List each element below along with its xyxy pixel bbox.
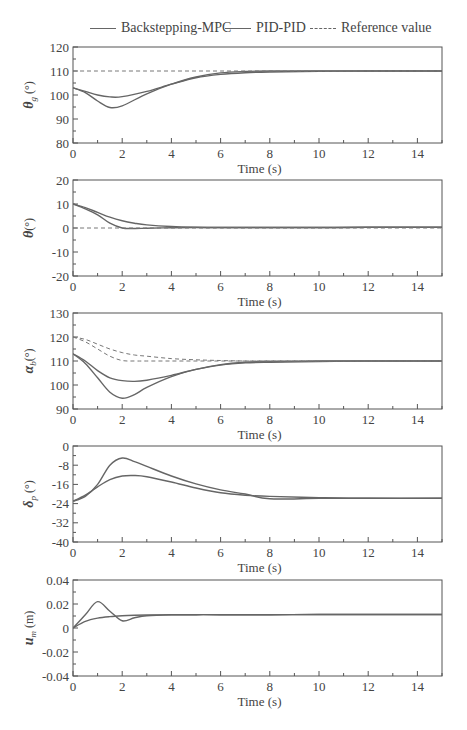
x-tick-label: 4 xyxy=(168,412,175,427)
chart-panel-1: 02468101214Time (s)1201101009080θg (°) xyxy=(21,40,442,177)
series-backstepping-mpc xyxy=(73,71,442,97)
x-tick-label: 4 xyxy=(168,279,175,294)
y-tick-label: 0 xyxy=(63,221,70,236)
x-tick-label: 0 xyxy=(70,545,77,560)
chart-panel-5: 02468101214Time (s)0.040.020-0.02-0.04um… xyxy=(21,573,442,710)
x-tick-label: 10 xyxy=(313,679,326,694)
x-axis-label: Time (s) xyxy=(238,161,282,176)
x-axis-label: Time (s) xyxy=(238,427,282,442)
series-backstepping-mpc xyxy=(73,354,442,382)
y-tick-label: 120 xyxy=(50,330,70,345)
series-pid-pid xyxy=(73,458,442,501)
x-tick-label: 0 xyxy=(70,679,77,694)
x-tick-label: 2 xyxy=(119,545,126,560)
y-tick-label: 0 xyxy=(63,621,70,636)
y-axis-label: δp (°) xyxy=(21,480,38,507)
x-tick-label: 8 xyxy=(267,545,274,560)
plot-frame xyxy=(73,580,442,676)
x-tick-label: 12 xyxy=(362,279,375,294)
x-tick-label: 6 xyxy=(217,146,224,161)
x-tick-label: 2 xyxy=(119,679,126,694)
x-tick-label: 12 xyxy=(362,545,375,560)
x-tick-label: 14 xyxy=(411,679,425,694)
y-tick-label: -24 xyxy=(52,496,70,511)
series-backstepping-mpc xyxy=(73,615,442,628)
y-tick-label: -8 xyxy=(58,458,69,473)
x-axis-label: Time (s) xyxy=(238,694,282,709)
y-tick-label: -20 xyxy=(52,269,69,284)
y-tick-label: 0.04 xyxy=(46,573,69,588)
x-tick-label: 8 xyxy=(267,412,274,427)
figure-caption-cutoff xyxy=(0,710,467,730)
y-tick-label: -0.02 xyxy=(42,645,69,660)
y-tick-label: -10 xyxy=(52,245,69,260)
x-tick-label: 4 xyxy=(168,679,175,694)
x-tick-label: 4 xyxy=(168,545,175,560)
y-axis-label: αb(°) xyxy=(21,348,38,373)
chart-stack: 02468101214Time (s)1201101009080θg (°)02… xyxy=(0,0,467,730)
y-tick-label: 110 xyxy=(50,64,69,79)
y-tick-label: 120 xyxy=(50,40,70,55)
y-tick-label: -16 xyxy=(52,477,70,492)
y-tick-label: 10 xyxy=(56,197,69,212)
x-tick-label: 10 xyxy=(313,545,326,560)
series-pid-pid xyxy=(73,204,442,229)
series-pid-pid xyxy=(73,602,442,628)
x-axis-label: Time (s) xyxy=(238,560,282,575)
y-tick-label: 100 xyxy=(50,378,70,393)
chart-panel-2: 02468101214Time (s)20100-10-20θ(°) xyxy=(21,173,442,310)
x-tick-label: 14 xyxy=(411,279,425,294)
x-tick-label: 10 xyxy=(313,412,326,427)
x-tick-label: 2 xyxy=(119,279,126,294)
series-reference-value-backstepping-mpc xyxy=(73,337,442,361)
x-tick-label: 0 xyxy=(70,412,77,427)
plot-frame xyxy=(73,446,442,542)
x-tick-label: 10 xyxy=(313,146,326,161)
y-axis-label: θg (°) xyxy=(21,81,38,109)
x-tick-label: 0 xyxy=(70,279,77,294)
x-tick-label: 8 xyxy=(267,279,274,294)
x-tick-label: 8 xyxy=(267,146,274,161)
y-tick-label: 130 xyxy=(50,306,70,321)
chart-panel-4: 02468101214Time (s)0-8-16-24-32-40δp (°) xyxy=(21,439,442,576)
x-tick-label: 6 xyxy=(217,545,224,560)
x-tick-label: 8 xyxy=(267,679,274,694)
chart-panel-3: 02468101214Time (s)13012011010090αb(°) xyxy=(21,306,442,443)
series-reference-value-pid-pid xyxy=(73,337,442,361)
series-backstepping-mpc xyxy=(73,204,442,228)
y-tick-label: 110 xyxy=(50,354,69,369)
y-tick-label: 20 xyxy=(56,173,69,188)
x-tick-label: 14 xyxy=(411,545,425,560)
x-tick-label: 6 xyxy=(217,412,224,427)
x-tick-label: 2 xyxy=(119,146,126,161)
x-tick-label: 2 xyxy=(119,412,126,427)
y-tick-label: 0 xyxy=(63,439,70,454)
x-tick-label: 10 xyxy=(313,279,326,294)
x-tick-label: 12 xyxy=(362,679,375,694)
y-tick-label: 0.02 xyxy=(46,597,69,612)
y-tick-label: -0.04 xyxy=(42,669,70,684)
x-tick-label: 6 xyxy=(217,679,224,694)
y-tick-label: 100 xyxy=(50,88,70,103)
y-axis-label: um (m) xyxy=(21,611,38,646)
y-axis-label: θ(°) xyxy=(21,218,36,238)
y-tick-label: 80 xyxy=(56,136,69,151)
y-tick-label: -40 xyxy=(52,535,69,550)
y-tick-label: -32 xyxy=(52,515,69,530)
series-pid-pid xyxy=(73,71,442,108)
x-tick-label: 14 xyxy=(411,146,425,161)
x-tick-label: 12 xyxy=(362,412,375,427)
x-axis-label: Time (s) xyxy=(238,294,282,309)
x-tick-label: 0 xyxy=(70,146,77,161)
x-tick-label: 4 xyxy=(168,146,175,161)
y-tick-label: 90 xyxy=(56,112,69,127)
x-tick-label: 6 xyxy=(217,279,224,294)
x-tick-label: 12 xyxy=(362,146,375,161)
y-tick-label: 90 xyxy=(56,402,69,417)
series-pid-pid xyxy=(73,354,442,398)
x-tick-label: 14 xyxy=(411,412,425,427)
